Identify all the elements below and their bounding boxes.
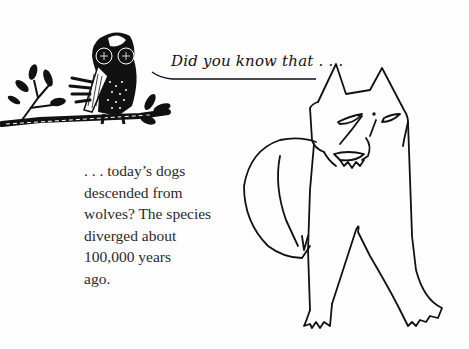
wolf-icon [240, 60, 469, 349]
fact-line: descended from [84, 182, 234, 204]
fact-line: . . . today’s dogs [84, 160, 234, 182]
fact-line: 100,000 years [84, 246, 234, 268]
fact-line: diverged about [84, 225, 234, 247]
fact-text: . . . today’s dogs descended from wolves… [84, 160, 234, 290]
owl-on-branch-icon [0, 20, 180, 150]
illustration-page: Did you know that . . . . . . today’s do… [0, 0, 469, 349]
fact-line: wolves? The species [84, 203, 234, 225]
fact-line: ago. [84, 268, 234, 290]
